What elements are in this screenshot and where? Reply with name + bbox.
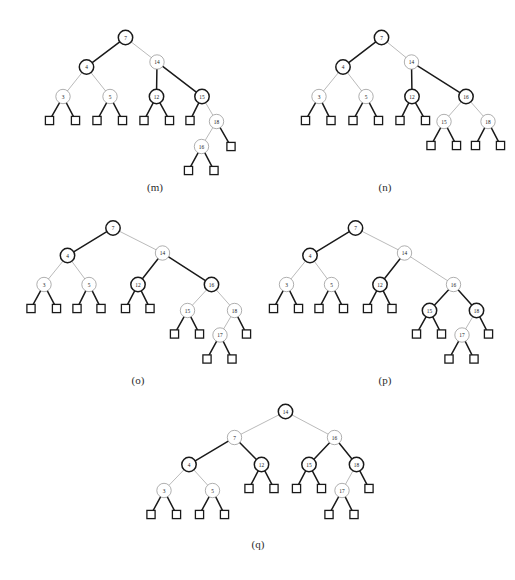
node-key-label: 4 bbox=[66, 253, 69, 259]
nil-leaf-node bbox=[437, 330, 445, 338]
panel-caption-q: (q) bbox=[252, 538, 265, 551]
tree-leaf-edge-15-7 bbox=[191, 317, 198, 330]
node-key-label: 4 bbox=[188, 462, 191, 468]
node-key-label: 14 bbox=[409, 59, 415, 65]
tree-node-14: 14 bbox=[404, 55, 418, 69]
tree-leaf-edge-12-5 bbox=[383, 291, 390, 304]
node-key-label: 17 bbox=[339, 488, 345, 494]
tree-node-4: 4 bbox=[60, 248, 74, 262]
tree-edge-16-15 bbox=[314, 443, 330, 460]
tree-leaf-edge-3-1 bbox=[47, 291, 54, 305]
tree-node-14: 14 bbox=[155, 246, 169, 260]
node-key-label: 17 bbox=[217, 332, 223, 338]
tree-edge-7-4 bbox=[74, 232, 107, 252]
tree-leaf-edge-18-8 bbox=[480, 317, 487, 330]
tree-edge-7-12 bbox=[240, 443, 257, 460]
tree-panel-q: 1471641215183517(q) bbox=[147, 404, 373, 550]
tree-leaf-edge-5-2 bbox=[79, 291, 86, 304]
tree-node-18: 18 bbox=[227, 303, 241, 317]
tree-edge-7-4 bbox=[92, 42, 120, 63]
nil-leaf-node bbox=[228, 355, 236, 363]
nil-leaf-node bbox=[388, 304, 396, 312]
node-key-label: 3 bbox=[285, 282, 288, 288]
tree-edge-7-4 bbox=[349, 42, 376, 63]
tree-diagram-canvas: 74143512151816(m)74143512161518(n)741435… bbox=[0, 0, 515, 580]
tree-node-7: 7 bbox=[348, 221, 362, 235]
tree-node-12: 12 bbox=[149, 89, 163, 103]
tree-node-12: 12 bbox=[131, 277, 145, 291]
node-key-label: 15 bbox=[427, 308, 433, 314]
tree-edge-16-15 bbox=[434, 290, 448, 305]
nil-leaf-node bbox=[121, 304, 129, 312]
tree-node-16: 16 bbox=[194, 139, 208, 153]
nil-leaf-node bbox=[118, 116, 126, 124]
tree-leaf-edge-12-4 bbox=[370, 291, 377, 305]
node-key-label: 18 bbox=[474, 308, 480, 314]
tree-node-16: 16 bbox=[204, 277, 218, 291]
tree-leaf-edge-5-3 bbox=[369, 103, 376, 117]
tree-node-4: 4 bbox=[303, 248, 317, 262]
node-key-label: 7 bbox=[112, 225, 115, 231]
tree-node-5: 5 bbox=[82, 277, 96, 291]
node-key-label: 7 bbox=[124, 35, 127, 41]
node-key-label: 14 bbox=[283, 409, 289, 415]
node-key-label: 16 bbox=[463, 94, 469, 100]
tree-edge-18-16 bbox=[205, 128, 213, 141]
nil-leaf-node bbox=[374, 116, 382, 124]
tree-leaf-edge-3-0 bbox=[276, 291, 283, 305]
node-key-label: 5 bbox=[88, 282, 91, 288]
tree-leaf-edge-12-1 bbox=[265, 471, 272, 485]
nil-leaf-node bbox=[452, 141, 460, 149]
nil-leaf-node bbox=[270, 484, 278, 492]
node-key-label: 5 bbox=[109, 94, 112, 100]
nil-leaf-node bbox=[470, 355, 478, 363]
red-black-tree-figure-sequence: 74143512151816(m)74143512161518(n)741435… bbox=[0, 0, 515, 580]
tree-leaf-edge-5-7 bbox=[202, 497, 209, 511]
tree-leaf-edge-5-3 bbox=[113, 103, 120, 117]
node-key-label: 15 bbox=[441, 119, 447, 125]
node-key-label: 16 bbox=[199, 144, 205, 150]
tree-leaf-edge-17-9 bbox=[331, 497, 338, 511]
panel-caption-o: (o) bbox=[132, 374, 145, 387]
nil-leaf-node bbox=[301, 116, 309, 124]
node-key-label: 5 bbox=[211, 488, 214, 494]
tree-node-5: 5 bbox=[359, 89, 373, 103]
tree-leaf-edge-3-0 bbox=[52, 103, 60, 117]
tree-node-16: 16 bbox=[446, 277, 460, 291]
tree-leaf-edge-15-6 bbox=[419, 317, 426, 330]
node-key-label: 18 bbox=[485, 119, 491, 125]
nil-leaf-node bbox=[220, 510, 228, 518]
tree-node-12: 12 bbox=[373, 277, 387, 291]
tree-panel-p: 7414351216151817(p) bbox=[269, 221, 492, 387]
tree-node-18: 18 bbox=[349, 457, 363, 471]
tree-edge-7-4 bbox=[316, 232, 349, 252]
tree-leaf-edge-17-10 bbox=[345, 497, 352, 510]
node-key-label: 7 bbox=[354, 225, 357, 231]
tree-node-12: 12 bbox=[254, 457, 268, 471]
nil-leaf-node bbox=[269, 304, 277, 312]
node-group-p: 7414351216151817 bbox=[279, 221, 483, 342]
nil-leaf-node bbox=[227, 142, 235, 150]
node-key-label: 16 bbox=[451, 282, 457, 288]
tree-edge-4-5 bbox=[91, 73, 106, 91]
nil-leaf-node bbox=[210, 166, 218, 174]
tree-node-17: 17 bbox=[335, 483, 349, 497]
tree-leaf-edge-5-3 bbox=[335, 291, 342, 304]
nil-leaf-node bbox=[45, 116, 53, 124]
tree-edge-18-17 bbox=[224, 317, 231, 329]
tree-leaf-edge-17-9 bbox=[209, 341, 216, 355]
nil-leaf-node bbox=[97, 304, 105, 312]
nil-leaf-node bbox=[52, 304, 60, 312]
nil-leaf-node bbox=[172, 510, 180, 518]
tree-edge-14-7 bbox=[241, 415, 279, 434]
node-key-label: 3 bbox=[163, 488, 166, 494]
tree-leaf-edge-3-1 bbox=[322, 103, 329, 116]
nil-leaf-node bbox=[325, 510, 333, 518]
tree-edge-18-17 bbox=[466, 317, 473, 329]
tree-node-3: 3 bbox=[279, 277, 293, 291]
nil-leaf-node bbox=[396, 116, 404, 124]
tree-leaf-edge-17-10 bbox=[223, 341, 230, 354]
nil-leaf-node bbox=[471, 141, 479, 149]
tree-leaf-edge-12-4 bbox=[146, 103, 153, 117]
tree-leaf-edge-12-5 bbox=[416, 103, 424, 117]
